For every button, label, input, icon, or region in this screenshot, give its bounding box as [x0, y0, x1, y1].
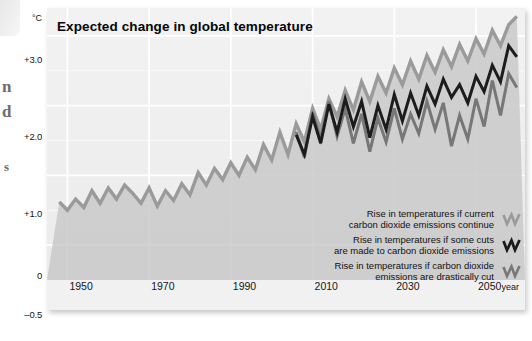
- y-axis-unit-label: °C: [32, 13, 42, 23]
- y-tick-1: +1.0: [24, 208, 42, 219]
- zigzag-icon-light: [502, 211, 521, 227]
- x-tick-1990: 1990: [233, 280, 256, 292]
- x-tick-1970: 1970: [151, 280, 174, 292]
- chart-title: Expected change in global temperature: [57, 19, 313, 34]
- y-tick-2: +2.0: [24, 131, 42, 142]
- y-tick-3: +3.0: [24, 54, 42, 65]
- x-axis: year 195019701990201020302050: [47, 280, 525, 306]
- y-tick-neg: –0.5: [24, 309, 42, 320]
- y-tick-0: 0: [37, 270, 42, 281]
- legend-label: Rise in temperatures if current carbon d…: [349, 208, 494, 231]
- legend-label-line2: are made to carbon dioxide emissions: [334, 245, 494, 257]
- chart-panel: Expected change in global temperature Ri…: [47, 8, 525, 310]
- x-axis-unit-label: year: [501, 282, 519, 292]
- x-tick-2030: 2030: [396, 280, 419, 292]
- legend-label: Rise in temperatures if some cuts are ma…: [334, 234, 494, 257]
- legend-item-some-cuts[interactable]: Rise in temperatures if some cuts are ma…: [293, 232, 521, 258]
- zigzag-icon-mid: [502, 263, 521, 279]
- legend-label-line2: carbon dioxide emissions continue: [349, 219, 494, 231]
- legend-label-line1: Rise in temperatures if carbon dioxide: [335, 260, 494, 272]
- y-axis: °C +3.0 +2.0 +1.0 0 –0.5: [0, 0, 47, 341]
- x-tick-2010: 2010: [315, 280, 338, 292]
- x-tick-1950: 1950: [69, 280, 92, 292]
- x-tick-2050: 2050: [478, 280, 501, 292]
- zigzag-icon-dark: [502, 237, 521, 253]
- chart-legend: Rise in temperatures if current carbon d…: [293, 206, 521, 284]
- legend-item-current-emissions[interactable]: Rise in temperatures if current carbon d…: [293, 206, 521, 232]
- legend-label-line1: Rise in temperatures if current: [349, 208, 494, 220]
- legend-label-line1: Rise in temperatures if some cuts: [334, 234, 494, 246]
